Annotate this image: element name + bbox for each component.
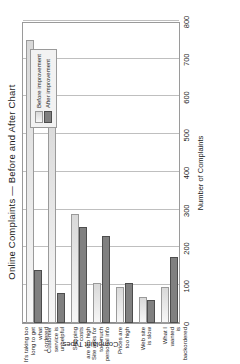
- bar-before: [161, 287, 169, 323]
- bar-group: [113, 23, 136, 323]
- value-axis-tick-label: 700: [182, 53, 191, 66]
- bar-before: [48, 112, 56, 323]
- value-axis-tick-label: 400: [182, 167, 191, 180]
- value-axis-ticks: 0100200300400500600700800: [182, 22, 196, 324]
- value-axis-tick-label: 200: [182, 242, 191, 255]
- chart-legend: Before improvement After improvement: [30, 49, 57, 128]
- bar-before: [71, 214, 79, 323]
- legend-label-before: Before improvement: [36, 54, 42, 108]
- legend-swatch-after-icon: [44, 111, 52, 123]
- chart-title: Online Complaints — Before and After Cha…: [6, 0, 17, 364]
- bar-after: [79, 227, 87, 323]
- value-axis-tick-label: 100: [182, 280, 191, 293]
- bar-after: [102, 236, 110, 323]
- legend-item-after: After improvement: [44, 54, 52, 123]
- legend-item-before: Before improvement: [35, 54, 43, 123]
- bar-after: [170, 257, 178, 323]
- value-axis-title: Number of Complaints: [196, 22, 205, 324]
- bar-group: [136, 23, 159, 323]
- value-axis-tick-label: 600: [182, 91, 191, 104]
- bar-after: [125, 283, 133, 323]
- bar-after: [34, 270, 42, 323]
- chart-stage: Online Complaints — Before and After Cha…: [0, 0, 240, 364]
- category-axis-title: Complaint Types: [11, 340, 171, 349]
- bar-group: [68, 23, 91, 323]
- value-axis-tick-label: 0: [182, 322, 191, 326]
- bar-after: [147, 300, 155, 323]
- bar-group: [158, 23, 181, 323]
- bar-before: [116, 287, 124, 323]
- bar-before: [139, 297, 147, 323]
- bar-before: [93, 283, 101, 323]
- bar-after: [57, 293, 65, 323]
- legend-swatch-before-icon: [35, 111, 43, 123]
- value-axis-tick-label: 800: [182, 16, 191, 29]
- gridline: [23, 20, 179, 21]
- chart-canvas: Online Complaints — Before and After Cha…: [0, 0, 240, 364]
- value-axis-tick-label: 300: [182, 204, 191, 217]
- value-axis-tick-label: 500: [182, 129, 191, 142]
- bar-group: [91, 23, 114, 323]
- legend-label-after: After improvement: [45, 59, 51, 108]
